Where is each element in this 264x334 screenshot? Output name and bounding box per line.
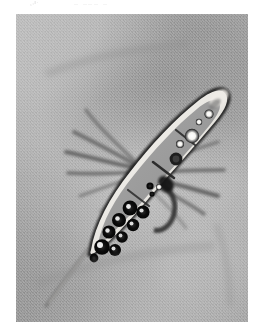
dark-globule <box>149 191 154 196</box>
dark-globule-highlight <box>97 242 103 248</box>
dark-globule <box>136 205 149 218</box>
specimen-layer <box>16 14 248 322</box>
bright-globule <box>196 119 202 125</box>
top-text-strip: ¸,ı· ‥ ‥‥‥ ‥ <box>0 0 264 13</box>
top-text-fragment-left: ¸,ı· <box>30 0 39 5</box>
dark-globule-upper-core <box>173 156 180 163</box>
bright-globule <box>185 129 199 143</box>
dark-globule <box>146 182 153 189</box>
page-root: ¸,ı· ‥ ‥‥‥ ‥ <box>0 0 264 334</box>
dark-globule-highlight <box>139 208 143 212</box>
dark-globule-highlight <box>115 216 120 221</box>
dark-globule <box>127 219 139 231</box>
dark-globule-highlight <box>105 228 109 232</box>
dark-globule-highlight <box>130 222 134 226</box>
micrograph-plate <box>16 14 248 322</box>
bright-globule <box>204 109 213 118</box>
dark-globule-highlight <box>112 247 116 251</box>
bright-globule <box>156 184 162 190</box>
top-text-fragment-right: ‥ ‥‥‥ ‥ <box>74 0 109 6</box>
dark-globule-highlight <box>119 234 123 238</box>
bright-globule <box>176 140 184 148</box>
dark-globule-highlight <box>126 204 131 209</box>
dark-globule <box>116 231 128 243</box>
